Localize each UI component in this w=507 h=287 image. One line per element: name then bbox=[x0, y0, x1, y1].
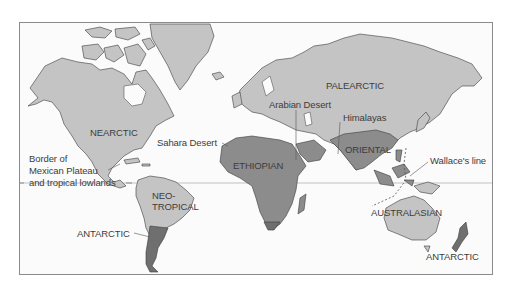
madagascar bbox=[298, 194, 306, 214]
antarctic-sa-leader bbox=[134, 233, 150, 237]
label-arabian-desert: Arabian Desert bbox=[269, 99, 331, 110]
label-mexican-border-line2: Mexican Plateau bbox=[29, 165, 98, 176]
label-ethiopian: ETHIOPIAN bbox=[233, 160, 283, 171]
label-mexican-border-line3: and tropical lowlands bbox=[29, 177, 116, 188]
label-australasian: AUSTRALASIAN bbox=[371, 207, 442, 218]
canadian-arctic-islands bbox=[82, 27, 155, 66]
iceland bbox=[212, 72, 224, 80]
australia bbox=[384, 196, 440, 240]
south-america-antarctic-region bbox=[146, 226, 168, 272]
label-oriental: ORIENTAL bbox=[345, 144, 391, 155]
label-himalayas: Himalayas bbox=[343, 112, 386, 123]
wallace-line-leader bbox=[410, 162, 428, 176]
new-guinea bbox=[414, 182, 440, 194]
greenland bbox=[150, 24, 214, 90]
label-sahara-desert: Sahara Desert bbox=[157, 137, 217, 148]
label-palearctic: PALEARCTIC bbox=[326, 80, 384, 91]
new-zealand bbox=[452, 222, 468, 252]
label-antarctic-south-america: ANTARCTIC bbox=[77, 228, 130, 239]
world-map bbox=[0, 0, 507, 287]
british-isles bbox=[232, 92, 242, 108]
label-mexican-border-line1: Border of bbox=[29, 153, 67, 164]
label-nearctic: NEARCTIC bbox=[90, 127, 138, 138]
label-neotropical-line2: TROPICAL bbox=[152, 201, 199, 212]
label-neotropical-line1: NEO- bbox=[152, 190, 175, 201]
label-wallace-line: Wallace's line bbox=[430, 155, 486, 166]
label-antarctic-new-zealand: ANTARCTIC bbox=[426, 251, 479, 262]
